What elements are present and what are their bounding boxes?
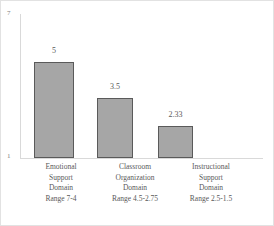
category-label-line: Classroom <box>96 162 174 173</box>
category-label-range: Range 2.5-1.5 <box>174 194 248 205</box>
bar-classroom-organization <box>97 98 133 158</box>
category-label-range: Range 7-4 <box>26 194 96 205</box>
category-label-line: Support <box>26 173 96 184</box>
category-label-range: Range 4.5-2.75 <box>96 194 174 205</box>
category-label-line: Instructional <box>174 162 248 173</box>
bar-value-label-instructional-support: 2.33 <box>158 111 193 119</box>
bar-instructional-support <box>158 126 193 158</box>
plot-area: 7 1 5 3.5 2.33 Emotional Support Domain … <box>1 1 274 226</box>
bar-value-label-emotional-support: 5 <box>34 47 74 55</box>
bar-value-label-classroom-organization: 3.5 <box>97 83 133 91</box>
bar-chart: 7 1 5 3.5 2.33 Emotional Support Domain … <box>0 0 274 226</box>
y-axis-line <box>20 14 21 159</box>
category-label-emotional-support: Emotional Support Domain Range 7-4 <box>26 162 96 204</box>
y-axis-tick-min: 1 <box>7 153 11 160</box>
category-label-line: Domain <box>174 183 248 194</box>
category-label-classroom-organization: Classroom Organization Domain Range 4.5-… <box>96 162 174 204</box>
x-axis-baseline <box>20 158 263 159</box>
category-label-line: Domain <box>96 183 174 194</box>
y-axis-tick-max: 7 <box>7 10 11 17</box>
category-label-line: Organization <box>96 173 174 184</box>
category-label-line: Domain <box>26 183 96 194</box>
category-label-line: Emotional <box>26 162 96 173</box>
category-axis-labels: Emotional Support Domain Range 7-4 Class… <box>20 162 263 204</box>
category-label-instructional-support: Instructional Support Domain Range 2.5-1… <box>174 162 248 204</box>
bar-emotional-support <box>34 62 74 158</box>
category-label-line: Support <box>174 173 248 184</box>
